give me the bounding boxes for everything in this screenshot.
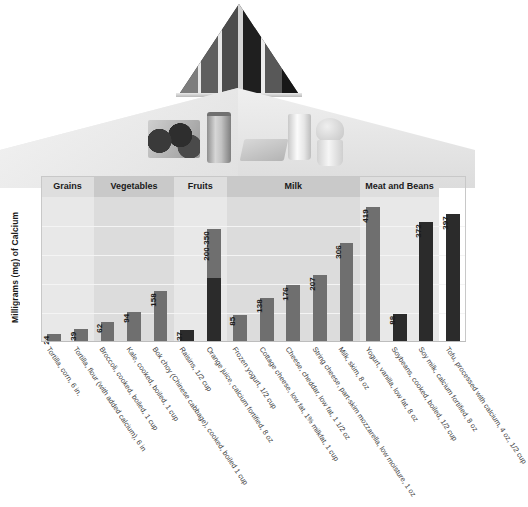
bar-value-label: 37 — [175, 330, 184, 341]
bar-13[interactable]: 88 — [393, 314, 407, 342]
category-header-grains: Grains — [41, 176, 94, 197]
y-axis-label: Milligrams (mg) of Calcium — [8, 192, 22, 342]
bar-3[interactable]: 94 — [127, 312, 141, 342]
bar-value-label: 88 — [388, 314, 397, 325]
bar-4[interactable]: 158 — [154, 291, 168, 342]
bar-value-label: 158 — [149, 291, 158, 306]
bar-value-label: 200-350 — [202, 229, 211, 260]
bar-value-label: 94 — [122, 312, 131, 323]
bar-value-label: 138 — [255, 298, 264, 313]
x-axis-labels: Tortilla, corn, 6 in.Tortilla, flour (wi… — [41, 345, 471, 505]
bar-15[interactable]: 397 — [446, 214, 460, 342]
bar-12[interactable]: 419 — [366, 207, 380, 342]
gridline — [41, 226, 466, 227]
bar-6[interactable]: 200-350 — [207, 229, 221, 342]
category-header-meat-and-beans: Meat and Beans — [360, 176, 440, 197]
bar-7[interactable]: 85 — [233, 315, 247, 342]
bar-8[interactable]: 138 — [260, 298, 274, 342]
bar-value-label: 207 — [308, 275, 317, 290]
bar-value-label: 306 — [334, 243, 343, 258]
bar-9[interactable]: 176 — [286, 285, 300, 342]
x-axis-line — [41, 341, 466, 342]
bar-value-label: 176 — [281, 285, 290, 300]
category-header-vegetables: Vegetables — [94, 176, 174, 197]
bar-10[interactable]: 207 — [313, 275, 327, 342]
gridline — [41, 284, 466, 285]
bar-value-label: 85 — [228, 315, 237, 326]
bar-value-label: 397 — [441, 214, 450, 229]
bar-segment-low — [207, 278, 221, 342]
bar-value-label: 62 — [95, 322, 104, 333]
x-tick-label-4: Bok choy (Chinese cabbage), cooked, boil… — [151, 345, 251, 487]
bar-value-label: 372 — [414, 222, 423, 237]
plot-area: GrainsVegetablesFruitsMilkMeat and Beans… — [41, 176, 466, 342]
bar-2[interactable]: 62 — [101, 322, 115, 342]
bar-11[interactable]: 306 — [340, 243, 354, 342]
bar-value-label: 24 — [42, 334, 51, 345]
bar-value-label: 419 — [361, 207, 370, 222]
bar-value-label: 39 — [69, 329, 78, 340]
gridline — [41, 255, 466, 256]
category-header-milk: Milk — [227, 176, 360, 197]
category-band-grains: Grains — [41, 176, 94, 342]
bar-14[interactable]: 372 — [419, 222, 433, 342]
category-header-fruits: Fruits — [174, 176, 227, 197]
